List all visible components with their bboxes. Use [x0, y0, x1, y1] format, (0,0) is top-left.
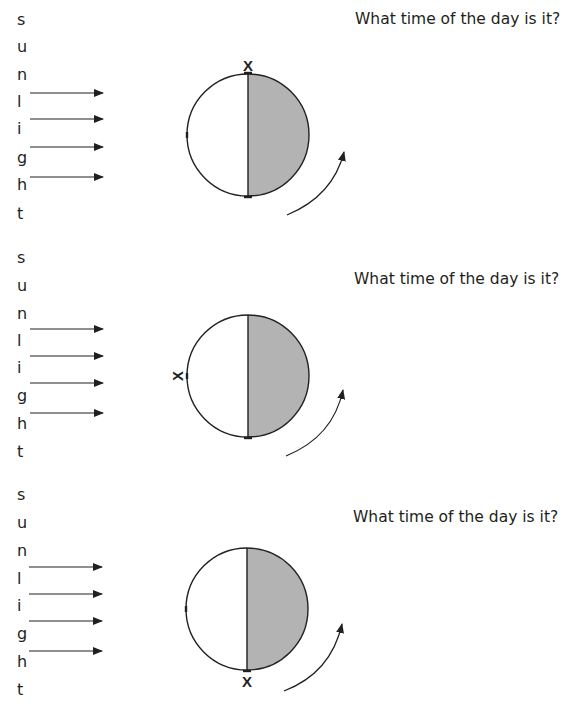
location-marker-x: X	[242, 673, 252, 690]
panel-3: s u n l i g h t X What time of the	[0, 480, 568, 724]
sunlight-arrows	[30, 329, 103, 413]
panel-2: s u n l i g h t X What time of the	[0, 240, 568, 480]
sunlight-arrows	[30, 93, 103, 177]
earth-globe	[186, 548, 308, 671]
night-half	[248, 74, 309, 196]
earth-globe	[187, 73, 309, 197]
location-marker-x: X	[169, 371, 186, 381]
night-half	[248, 315, 309, 437]
panel-1: s u n l i g h t X What time	[0, 0, 568, 240]
question-text: What time of the day is it?	[354, 270, 559, 288]
panel-1-figure: X	[0, 0, 568, 240]
night-half	[247, 548, 308, 670]
earth-globe	[187, 315, 309, 438]
question-text: What time of the day is it?	[353, 508, 558, 526]
question-text: What time of the day is it?	[355, 10, 560, 28]
sunlight-arrows	[29, 567, 102, 651]
location-marker-x: X	[243, 57, 253, 74]
